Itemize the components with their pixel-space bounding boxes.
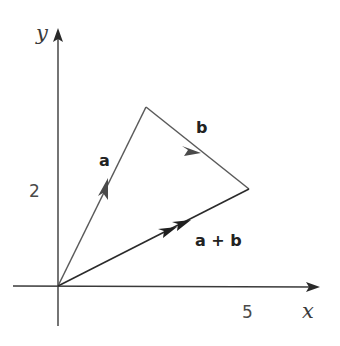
axes [13, 28, 320, 326]
y-axis-label: y [35, 21, 49, 45]
vector-sum-arrowhead-2-icon [172, 220, 191, 231]
x-tick-label: 5 [242, 302, 253, 322]
vector-a-label: a [99, 151, 110, 170]
vector-diagram: y x 2 5 a b a + b [0, 0, 340, 346]
vector-sum-arrowhead-1-icon [158, 227, 177, 238]
x-axis-label: x [302, 299, 314, 323]
vector-b-arrowhead-icon [182, 146, 201, 156]
vector-b-label: b [196, 118, 207, 137]
y-tick-label: 2 [29, 181, 40, 201]
vector-a [58, 107, 146, 286]
vector-sum-label: a + b [195, 231, 242, 250]
vector-a-arrowhead-icon [98, 178, 108, 200]
